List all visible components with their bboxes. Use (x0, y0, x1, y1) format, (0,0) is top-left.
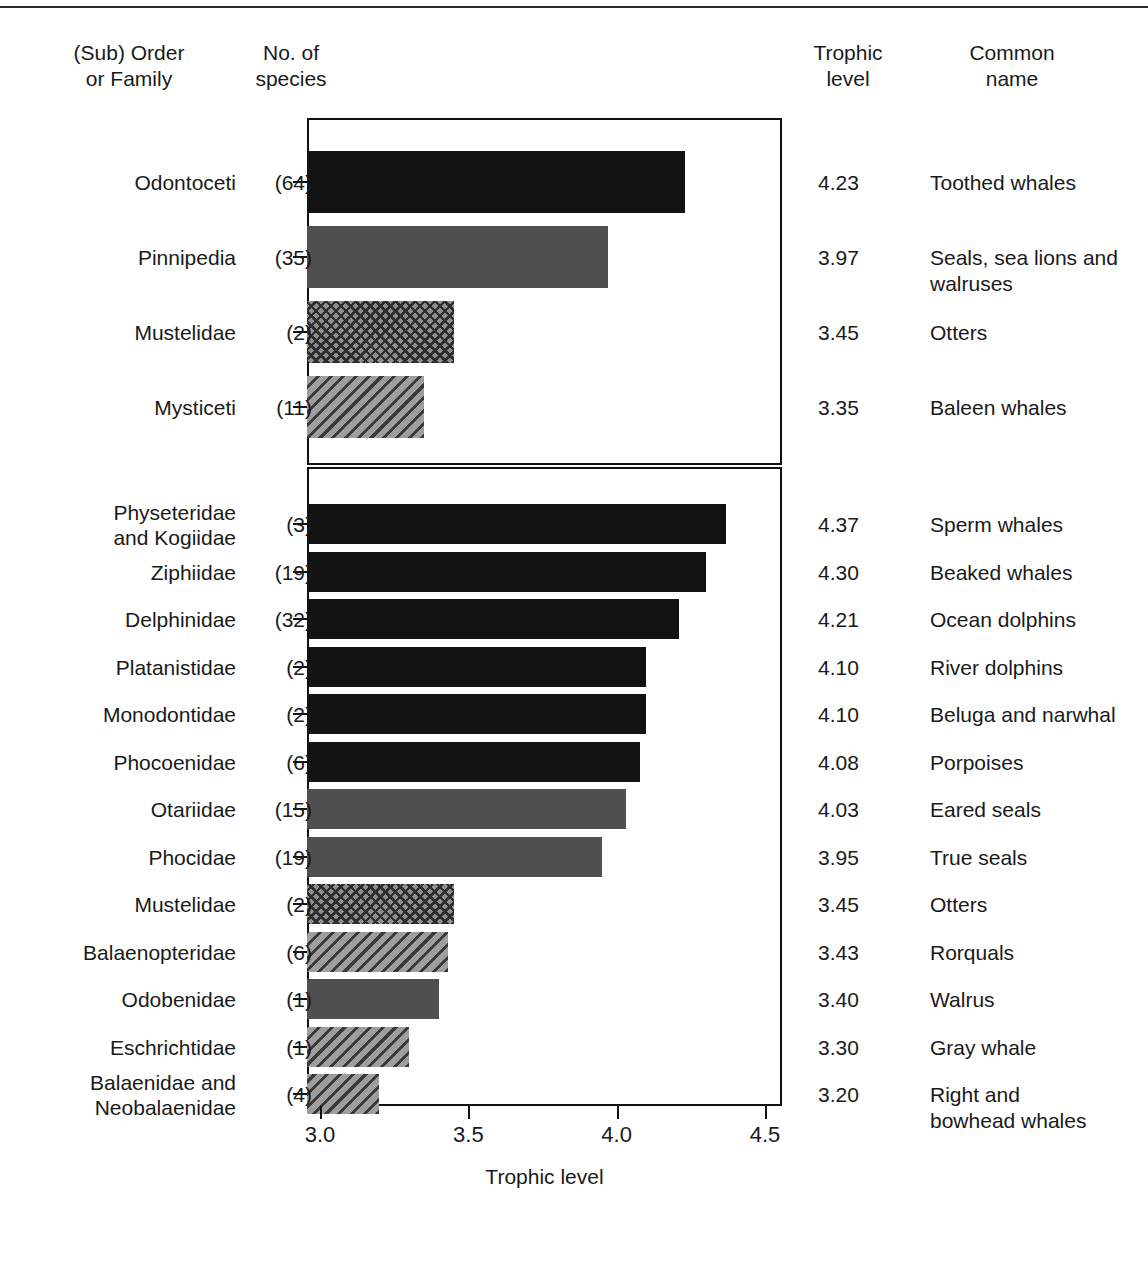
species-count: (2) (240, 892, 312, 917)
common-name: True seals (930, 845, 1140, 871)
species-count: (19) (240, 845, 312, 870)
bar-eschrichtidae (307, 1027, 409, 1067)
column-header-trophic-line1: Trophic (800, 40, 896, 66)
species-count: (32) (240, 607, 312, 632)
x-axis-tick-label: 4.0 (582, 1122, 652, 1148)
bar-phocidae (307, 837, 602, 877)
common-name-line: Sperm whales (930, 512, 1140, 538)
x-axis-tick (468, 1106, 470, 1119)
bar-odobenidae (307, 979, 439, 1019)
common-name: Beluga and narwhal (930, 702, 1140, 728)
common-name: River dolphins (930, 655, 1140, 681)
species-count: (1) (240, 987, 312, 1012)
bar-otariidae (307, 789, 626, 829)
column-header-trophic-line2: level (800, 66, 896, 92)
taxon-label-line: Mustelidae (10, 892, 236, 917)
species-count: (19) (240, 560, 312, 585)
common-name-line: Gray whale (930, 1035, 1140, 1061)
taxon-label-line: Monodontidae (10, 702, 236, 727)
column-header-taxon: (Sub) Order or Family (24, 40, 234, 92)
common-name-line: Toothed whales (930, 170, 1140, 196)
common-name: Ocean dolphins (930, 607, 1140, 633)
common-name: Rorquals (930, 940, 1140, 966)
taxon-label: Physeteridaeand Kogiidae (10, 500, 236, 550)
taxon-label: Eschrichtidae (10, 1035, 236, 1060)
column-header-species-line2: species (236, 66, 346, 92)
bar-mustelidae (307, 884, 454, 924)
species-count: (4) (240, 1082, 312, 1107)
x-axis: 3.03.54.04.5 (307, 1106, 782, 1107)
bar-balaenopteridae (307, 932, 448, 972)
common-name-line: River dolphins (930, 655, 1140, 681)
taxon-label: Platanistidae (10, 655, 236, 680)
trophic-level-value: 4.37 (818, 512, 888, 537)
trophic-level-value: 4.23 (818, 170, 888, 195)
bar-balaenidae-and-neobalaenidae (307, 1074, 379, 1114)
species-count: (15) (240, 797, 312, 822)
common-name-line: Beaked whales (930, 560, 1140, 586)
taxon-label: Phocoenidae (10, 750, 236, 775)
common-name: Otters (930, 320, 1140, 346)
x-axis-tick-label: 3.5 (433, 1122, 503, 1148)
common-name: Toothed whales (930, 170, 1140, 196)
taxon-label-line: Otariidae (10, 797, 236, 822)
x-axis-title: Trophic level (307, 1165, 782, 1189)
trophic-level-value: 3.20 (818, 1082, 888, 1107)
common-name-line: bowhead whales (930, 1108, 1140, 1134)
species-count: (2) (240, 702, 312, 727)
taxon-label: Ziphiidae (10, 560, 236, 585)
column-header-taxon-line2: or Family (24, 66, 234, 92)
taxon-label-line: Neobalaenidae (10, 1095, 236, 1120)
trophic-level-value: 3.35 (818, 395, 888, 420)
taxon-label: Mysticeti (10, 395, 236, 420)
species-count: (11) (240, 395, 312, 420)
trophic-level-value: 4.21 (818, 607, 888, 632)
column-header-common-line1: Common (912, 40, 1112, 66)
common-name-line: Porpoises (930, 750, 1140, 776)
taxon-label: Phocidae (10, 845, 236, 870)
trophic-level-value: 3.95 (818, 845, 888, 870)
common-name-line: Otters (930, 892, 1140, 918)
common-name-line: Rorquals (930, 940, 1140, 966)
taxon-label: Odobenidae (10, 987, 236, 1012)
species-count: (35) (240, 245, 312, 270)
taxon-label-line: Physeteridae (10, 500, 236, 525)
trophic-level-value: 4.03 (818, 797, 888, 822)
taxon-label-line: Delphinidae (10, 607, 236, 632)
taxon-label-line: Eschrichtidae (10, 1035, 236, 1060)
common-name-line: Walrus (930, 987, 1140, 1013)
bar-platanistidae (307, 647, 646, 687)
trophic-level-value: 4.10 (818, 702, 888, 727)
column-header-taxon-line1: (Sub) Order (24, 40, 234, 66)
species-count: (6) (240, 940, 312, 965)
bar-ziphiidae (307, 552, 706, 592)
column-header-common-name: Common name (912, 40, 1112, 92)
trophic-level-value: 3.43 (818, 940, 888, 965)
taxon-label-line: Mustelidae (10, 320, 236, 345)
common-name-line: Seals, sea lions and (930, 245, 1140, 271)
column-header-trophic-level: Trophic level (800, 40, 896, 92)
bar-monodontidae (307, 694, 646, 734)
taxon-label-line: Ziphiidae (10, 560, 236, 585)
common-name: Seals, sea lions andwalruses (930, 245, 1140, 297)
taxon-label-line: Phocoenidae (10, 750, 236, 775)
bar-mustelidae (307, 301, 454, 363)
taxon-label: Balaenidae andNeobalaenidae (10, 1070, 236, 1120)
species-count: (2) (240, 655, 312, 680)
taxon-label: Mustelidae (10, 892, 236, 917)
taxon-label: Mustelidae (10, 320, 236, 345)
trophic-level-value: 4.10 (818, 655, 888, 680)
trophic-level-value: 3.97 (818, 245, 888, 270)
column-header-common-line2: name (912, 66, 1112, 92)
column-header-species-line1: No. of (236, 40, 346, 66)
trophic-level-value: 3.45 (818, 320, 888, 345)
taxon-label-line: Pinnipedia (10, 245, 236, 270)
common-name-line: Otters (930, 320, 1140, 346)
taxon-label-line: Balaenidae and (10, 1070, 236, 1095)
species-count: (1) (240, 1035, 312, 1060)
column-header-species: No. of species (236, 40, 346, 92)
taxon-label: Balaenopteridae (10, 940, 236, 965)
taxon-label: Pinnipedia (10, 245, 236, 270)
species-count: (6) (240, 750, 312, 775)
taxon-label: Monodontidae (10, 702, 236, 727)
